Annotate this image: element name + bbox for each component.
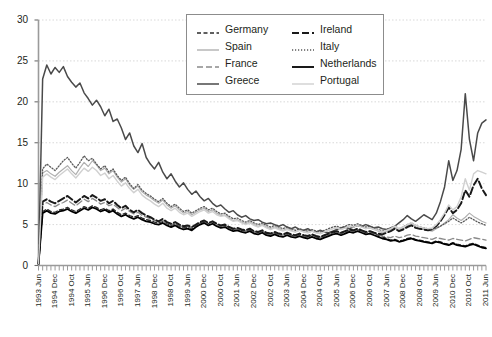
x-axis-tick-label: 1998 Oct	[167, 274, 175, 306]
legend-item-ireland[interactable]: Ireland	[291, 20, 377, 37]
legend-label: Spain	[225, 41, 252, 51]
legend-label: Portugal	[320, 75, 359, 85]
y-axis-tick-label: 20	[2, 97, 28, 107]
legend-label: Germany	[225, 24, 268, 34]
line-chart: 051015202530 1993 Jun1994 Dec1994 Oct199…	[0, 0, 492, 337]
x-axis-tick-label: 2008 Dec	[399, 274, 407, 308]
x-axis-tick-label: 2006 Dec	[349, 274, 357, 308]
legend-item-germany[interactable]: Germany	[196, 20, 268, 37]
y-axis-tick-label: 25	[2, 56, 28, 66]
y-axis-tick-label: 15	[2, 138, 28, 148]
x-axis-tick-label: 1995 Jun	[84, 274, 92, 307]
x-axis-tick-label: 1997 Jun	[134, 274, 142, 307]
y-axis-tick-label: 10	[2, 179, 28, 189]
x-axis-tick-label: 2009 Jun	[432, 274, 440, 307]
legend-swatch-greece	[196, 75, 220, 85]
chart-legend: GermanySpainFranceGreece IrelandItalyNet…	[186, 14, 384, 95]
legend-swatch-portugal	[291, 75, 315, 85]
legend-item-spain[interactable]: Spain	[196, 37, 268, 54]
y-axis-tick-label: 5	[2, 220, 28, 230]
legend-swatch-italy	[291, 41, 315, 51]
x-axis-tick-label: 1998 Dec	[151, 274, 159, 308]
legend-swatch-france	[196, 58, 220, 68]
x-axis-tick-label: 2002 Dec	[250, 274, 258, 308]
legend-label: Italy	[320, 41, 339, 51]
x-axis-tick-label: 2008 Oct	[416, 274, 424, 306]
x-axis-minor-ticks	[39, 266, 487, 271]
legend-item-france[interactable]: France	[196, 54, 268, 71]
x-axis-tick-label: 2011 Jun	[482, 274, 490, 306]
x-axis-tick-label: 2003 Jun	[283, 274, 291, 307]
series-line-netherlands	[39, 207, 487, 263]
y-axis-tick-label: 0	[2, 261, 28, 271]
series-line-portugal	[39, 167, 487, 264]
legend-label: France	[225, 58, 258, 68]
x-axis-tick-label: 2007 Jun	[383, 274, 391, 307]
legend-column-right: IrelandItalyNetherlandsPortugal	[291, 20, 377, 88]
x-axis-tick-label: 2010 Oct	[465, 274, 473, 306]
legend-label: Greece	[225, 75, 259, 85]
legend-swatch-netherlands	[291, 58, 315, 68]
legend-label: Netherlands	[320, 58, 377, 68]
x-axis-tick-label: 2004 Dec	[300, 274, 308, 308]
legend-column-left: GermanySpainFranceGreece	[196, 20, 268, 88]
x-axis-tick-label: 2006 Oct	[366, 274, 374, 306]
series-line-germany	[39, 206, 487, 264]
legend-item-netherlands[interactable]: Netherlands	[291, 54, 377, 71]
x-axis-tick-label: 2004 Oct	[316, 274, 324, 306]
legend-label: Ireland	[320, 24, 352, 34]
legend-item-portugal[interactable]: Portugal	[291, 71, 377, 88]
x-axis-tick-label: 1999 Jun	[184, 274, 192, 307]
x-axis-tick-label: 2000 Dec	[200, 274, 208, 308]
x-axis-tick-label: 2010 Dec	[449, 274, 457, 308]
x-axis-tick-label: 2000 Oct	[217, 274, 225, 306]
legend-swatch-ireland	[291, 24, 315, 34]
legend-swatch-germany	[196, 24, 220, 34]
legend-item-italy[interactable]: Italy	[291, 37, 377, 54]
legend-item-greece[interactable]: Greece	[196, 71, 268, 88]
x-axis-tick-label: 1996 Dec	[101, 274, 109, 308]
x-axis-tick-label: 2002 Oct	[267, 274, 275, 306]
x-axis-tick-label: 1994 Oct	[68, 274, 76, 306]
x-axis-tick-label: 2001 Jun	[233, 274, 241, 307]
legend-swatch-spain	[196, 41, 220, 51]
y-axis-tick-label: 30	[2, 15, 28, 25]
x-axis-tick-label: 1994 Dec	[51, 274, 59, 308]
x-axis-tick-label: 1996 Oct	[117, 274, 125, 306]
x-axis-tick-label: 2005 Jun	[333, 274, 341, 307]
series-line-spain	[39, 161, 487, 264]
x-axis-tick-label: 1993 Jun	[35, 274, 43, 307]
